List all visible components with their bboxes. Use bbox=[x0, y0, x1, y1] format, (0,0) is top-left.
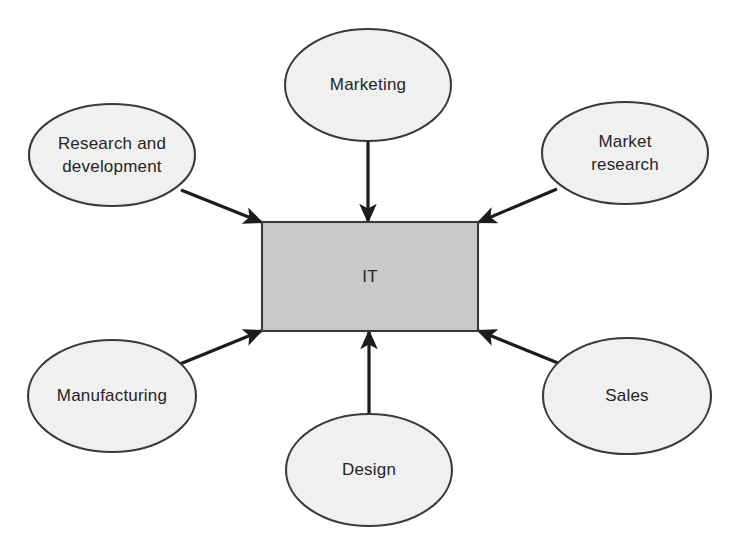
node-label-research-and-development: development bbox=[62, 157, 162, 176]
hub-and-spoke-diagram: IT MarketingResearch anddevelopmentMarke… bbox=[0, 0, 734, 551]
diagram-canvas: IT MarketingResearch anddevelopmentMarke… bbox=[0, 0, 734, 551]
edge-market-research-it-arrow bbox=[479, 189, 557, 222]
node-manufacturing[interactable]: Manufacturing bbox=[28, 340, 196, 452]
edge-manufacturing-it-arrow bbox=[180, 331, 261, 364]
node-label-market-research: research bbox=[591, 155, 659, 174]
node-market-research[interactable]: Marketresearch bbox=[542, 102, 708, 204]
node-design[interactable]: Design bbox=[286, 414, 452, 526]
node-label-market-research: Market bbox=[598, 132, 651, 151]
node-label-manufacturing: Manufacturing bbox=[57, 386, 167, 405]
node-shape-market-research bbox=[542, 102, 708, 204]
edge-sales-it-arrow bbox=[479, 331, 558, 363]
node-label-design: Design bbox=[342, 460, 396, 479]
node-shape-research-and-development bbox=[29, 104, 195, 206]
edge-rnd-it-arrow bbox=[181, 190, 261, 222]
hub-label-it: IT bbox=[362, 267, 378, 286]
node-label-marketing: Marketing bbox=[330, 75, 406, 94]
hub-layer: IT bbox=[262, 222, 478, 331]
node-marketing[interactable]: Marketing bbox=[285, 29, 451, 141]
node-research-and-development[interactable]: Research anddevelopment bbox=[29, 104, 195, 206]
node-label-research-and-development: Research and bbox=[58, 134, 166, 153]
node-label-sales: Sales bbox=[605, 386, 649, 405]
node-sales[interactable]: Sales bbox=[543, 338, 711, 454]
